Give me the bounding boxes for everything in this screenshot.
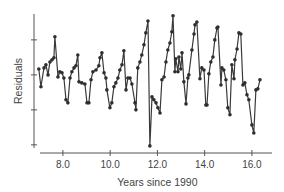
data-point	[74, 64, 78, 68]
data-point	[222, 68, 226, 72]
data-point	[112, 85, 116, 89]
data-point	[213, 38, 217, 42]
data-point	[46, 73, 50, 77]
data-point	[66, 101, 70, 105]
data-point	[156, 106, 160, 110]
data-point	[180, 51, 184, 55]
data-point	[184, 102, 188, 106]
data-point	[205, 103, 209, 107]
data-point	[158, 111, 162, 115]
x-tick-label: 14.0	[195, 159, 215, 170]
data-point	[116, 76, 120, 80]
data-point	[105, 88, 109, 92]
data-point	[258, 78, 262, 82]
data-point	[177, 55, 181, 59]
data-point	[70, 70, 74, 74]
data-point	[239, 32, 243, 36]
data-point	[209, 60, 213, 64]
data-point	[144, 31, 148, 35]
data-point	[171, 14, 175, 18]
data-point	[136, 66, 140, 70]
data-point	[232, 77, 236, 81]
data-point	[118, 68, 122, 72]
data-point	[76, 53, 80, 57]
data-point	[252, 131, 256, 135]
x-tick-label: 8.0	[56, 159, 70, 170]
data-point	[250, 123, 254, 127]
data-point	[110, 101, 114, 105]
data-point	[130, 82, 134, 86]
data-point	[138, 60, 142, 64]
data-point	[173, 70, 177, 74]
data-point	[198, 77, 202, 81]
data-point	[226, 106, 230, 110]
x-axis-label: Years since 1990	[117, 176, 197, 188]
data-point	[174, 57, 178, 61]
data-point	[52, 56, 56, 60]
plot-area	[37, 14, 262, 148]
data-point	[108, 106, 112, 110]
data-point	[133, 101, 137, 105]
data-point	[247, 98, 251, 102]
data-point	[154, 101, 158, 105]
data-point	[91, 70, 95, 74]
y-axis: Residuals	[12, 14, 37, 148]
data-point	[207, 72, 211, 76]
data-point	[187, 73, 191, 77]
x-tick-label: 12.0	[148, 159, 168, 170]
data-point	[94, 68, 98, 72]
data-point	[62, 76, 66, 80]
data-point	[166, 48, 170, 52]
data-point	[100, 51, 104, 55]
data-point	[140, 53, 144, 57]
data-point	[211, 55, 215, 59]
data-point	[68, 76, 72, 80]
data-point	[83, 82, 87, 86]
data-point	[182, 80, 186, 84]
data-point	[216, 25, 220, 29]
data-point	[230, 63, 234, 67]
x-tick-label: 10.0	[100, 159, 120, 170]
data-point	[168, 41, 172, 45]
data-point	[245, 93, 249, 97]
data-point	[192, 32, 196, 36]
data-point	[64, 98, 68, 102]
data-point	[148, 144, 152, 148]
data-point	[152, 98, 156, 102]
data-point	[164, 60, 168, 64]
data-point	[56, 75, 60, 79]
data-point	[128, 76, 132, 80]
data-point	[124, 88, 128, 92]
data-point	[53, 35, 57, 39]
data-point	[98, 56, 102, 60]
data-point	[256, 87, 260, 91]
data-point	[186, 76, 190, 80]
data-point	[228, 113, 232, 117]
data-point	[122, 49, 126, 53]
data-point	[202, 68, 206, 72]
data-point	[60, 71, 64, 75]
data-point	[162, 75, 166, 79]
data-point	[176, 70, 180, 74]
data-point	[37, 67, 41, 71]
data-point	[233, 58, 237, 62]
data-point	[89, 78, 93, 82]
data-point	[104, 76, 108, 80]
data-point	[120, 63, 124, 67]
data-point	[87, 101, 91, 105]
data-point	[170, 30, 174, 34]
data-point	[42, 66, 46, 70]
data-point	[114, 81, 118, 85]
x-axis: 8.010.012.014.016.0 Years since 1990	[40, 150, 272, 188]
data-point	[190, 48, 194, 52]
data-point	[179, 67, 183, 71]
data-point	[102, 71, 106, 75]
data-point	[142, 43, 146, 47]
data-point	[146, 19, 150, 23]
data-point	[134, 108, 138, 112]
data-point	[224, 78, 228, 82]
data-point	[195, 20, 199, 24]
data-point	[97, 64, 101, 68]
x-tick-label: 16.0	[242, 159, 262, 170]
data-point	[235, 47, 239, 51]
